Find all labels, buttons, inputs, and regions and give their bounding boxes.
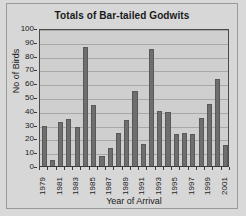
- bar: [116, 133, 121, 166]
- chart-figure: Totals of Bar-tailed Godwits No of Birds…: [6, 3, 238, 209]
- y-tick-label: 40: [25, 108, 34, 116]
- bar: [165, 112, 170, 166]
- y-tick-label: 90: [25, 39, 34, 47]
- plot-area: [39, 29, 229, 167]
- x-tick-mark: [163, 167, 164, 170]
- chart-title: Totals of Bar-tailed Godwits: [7, 10, 237, 21]
- bar: [132, 91, 137, 166]
- x-tick-mark: [171, 167, 172, 170]
- bar: [190, 134, 195, 166]
- y-tick-mark: [34, 57, 37, 58]
- bar: [174, 134, 179, 166]
- y-tick-label: 10: [25, 149, 34, 157]
- x-tick-mark: [105, 167, 106, 170]
- bar: [50, 160, 55, 166]
- y-tick-mark: [34, 84, 37, 85]
- x-axis-title: Year of Arrival: [39, 196, 229, 206]
- y-tick-label: 70: [25, 66, 34, 74]
- x-tick-mark: [146, 167, 147, 170]
- x-tick-mark: [80, 167, 81, 170]
- x-tick-mark: [122, 167, 123, 170]
- x-tick-mark: [179, 167, 180, 170]
- y-tick-mark: [34, 167, 37, 168]
- x-tick-mark: [56, 167, 57, 170]
- x-tick-mark: [212, 167, 213, 170]
- x-axis-tick-labels: 1979198119831985198719891991199319951997…: [39, 171, 229, 197]
- x-tick-mark: [47, 167, 48, 170]
- bar: [215, 79, 220, 166]
- x-tick-mark: [155, 167, 156, 170]
- bar: [75, 127, 80, 166]
- y-tick-mark: [34, 153, 37, 154]
- bar: [157, 111, 162, 166]
- y-tick-label: 100: [21, 25, 34, 33]
- bar: [91, 105, 96, 166]
- x-tick-mark: [89, 167, 90, 170]
- x-tick-mark: [130, 167, 131, 170]
- bar: [149, 49, 154, 166]
- bar: [223, 145, 228, 166]
- bar: [124, 120, 129, 166]
- x-tick-mark: [39, 167, 40, 170]
- bar: [83, 47, 88, 166]
- x-tick-mark: [204, 167, 205, 170]
- x-tick-mark: [138, 167, 139, 170]
- x-tick-mark: [188, 167, 189, 170]
- y-tick-label: 60: [25, 80, 34, 88]
- y-tick-label: 30: [25, 122, 34, 130]
- bar: [207, 104, 212, 166]
- y-tick-mark: [34, 126, 37, 127]
- y-tick-mark: [34, 43, 37, 44]
- y-axis-tick-labels: 0102030405060708090100: [7, 29, 37, 167]
- y-tick-label: 20: [25, 135, 34, 143]
- x-tick-mark: [229, 167, 230, 170]
- bar: [141, 144, 146, 166]
- bar: [108, 148, 113, 166]
- bar: [182, 133, 187, 166]
- bar: [58, 122, 63, 166]
- x-tick-mark: [113, 167, 114, 170]
- x-tick-mark: [72, 167, 73, 170]
- y-tick-mark: [34, 70, 37, 71]
- bar: [199, 118, 204, 166]
- bar: [42, 126, 47, 166]
- bar: [99, 156, 104, 166]
- bar: [66, 119, 71, 166]
- x-tick-mark: [64, 167, 65, 170]
- x-tick-mark: [97, 167, 98, 170]
- y-tick-label: 50: [25, 94, 34, 102]
- y-tick-label: 80: [25, 53, 34, 61]
- y-tick-mark: [34, 112, 37, 113]
- x-tick-mark: [196, 167, 197, 170]
- y-tick-mark: [34, 98, 37, 99]
- y-tick-mark: [34, 29, 37, 30]
- x-tick-mark: [221, 167, 222, 170]
- bar-series: [40, 30, 228, 166]
- y-tick-mark: [34, 139, 37, 140]
